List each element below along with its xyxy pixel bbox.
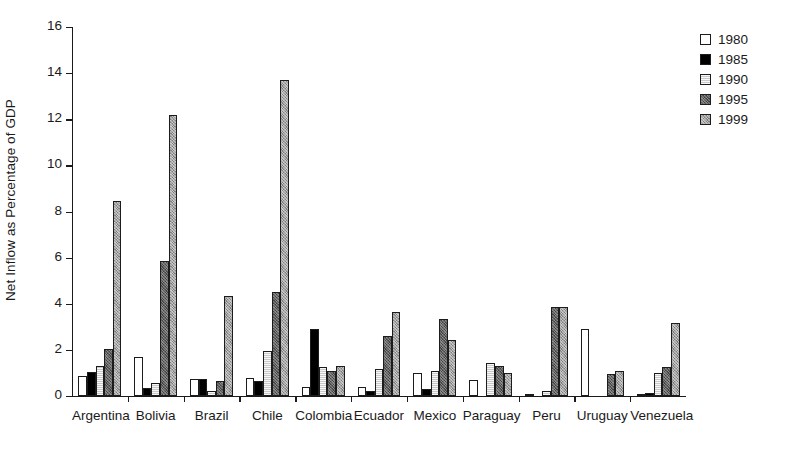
bar	[254, 381, 263, 396]
bar	[263, 351, 272, 396]
bar	[134, 357, 143, 396]
y-axis-tick: 14	[66, 73, 72, 74]
bar-group	[190, 27, 233, 396]
legend-swatch-icon	[700, 94, 711, 105]
legend-item: 1999	[700, 110, 792, 129]
bar	[358, 387, 367, 396]
legend-item: 1985	[700, 50, 792, 69]
bar	[366, 391, 375, 396]
y-axis-tick: 10	[66, 165, 72, 166]
y-axis-tick: 6	[66, 258, 72, 259]
y-axis-tick-label: 8	[38, 203, 62, 218]
bar	[160, 261, 169, 396]
legend-item: 1980	[700, 30, 792, 49]
bar	[190, 379, 199, 396]
x-axis-tick	[184, 396, 185, 402]
x-axis-line	[72, 396, 686, 397]
x-axis-tick	[574, 396, 575, 402]
bar	[431, 371, 440, 396]
bar-chart: Net Inflow as Percentage of GDP 02468101…	[0, 0, 798, 451]
bar-group	[413, 27, 456, 396]
bar	[383, 336, 392, 396]
y-axis-tick: 16	[66, 27, 72, 28]
legend-label: 1985	[718, 50, 748, 69]
x-axis-category-label: Venezuela	[630, 408, 686, 423]
bar	[96, 366, 105, 396]
bar	[495, 366, 504, 396]
bar	[671, 323, 680, 396]
bar	[280, 80, 289, 396]
legend-label: 1980	[718, 30, 748, 49]
bar	[113, 201, 122, 396]
bar	[199, 379, 208, 396]
bar	[336, 366, 345, 396]
bar	[169, 115, 178, 396]
legend-swatch-icon	[700, 34, 711, 45]
y-axis-tick-label: 6	[38, 249, 62, 264]
plot-area: 0246810121416 ArgentinaBoliviaBrazilChil…	[72, 27, 686, 396]
bar-group	[134, 27, 177, 396]
x-axis-tick	[630, 396, 631, 402]
bar	[310, 329, 319, 396]
bar	[504, 373, 513, 396]
bar-group	[246, 27, 289, 396]
bar	[224, 296, 233, 396]
x-axis-tick	[519, 396, 520, 402]
bar-group	[581, 27, 624, 396]
bar-group	[525, 27, 568, 396]
bar	[151, 383, 160, 396]
bar	[654, 373, 663, 396]
x-axis-category-label: Peru	[519, 408, 575, 423]
y-axis-line	[72, 27, 73, 396]
bar	[375, 369, 384, 396]
bar-group	[358, 27, 401, 396]
bar	[207, 391, 216, 396]
bar	[439, 319, 448, 396]
bar	[615, 371, 624, 396]
bar	[78, 376, 87, 396]
bar	[392, 312, 401, 396]
x-axis-category-label: Bolivia	[128, 408, 184, 423]
x-axis-tick	[239, 396, 240, 402]
x-axis-category-label: Mexico	[407, 408, 463, 423]
bar	[645, 393, 654, 396]
bar	[525, 394, 534, 396]
bar	[559, 307, 568, 396]
bar	[319, 367, 328, 396]
x-axis-category-label: Uruguay	[574, 408, 630, 423]
y-axis-tick: 8	[66, 212, 72, 213]
bar-group	[637, 27, 680, 396]
legend-label: 1990	[718, 70, 748, 89]
x-axis-category-label: Argentina	[72, 408, 128, 423]
legend-label: 1995	[718, 90, 748, 109]
bar	[551, 307, 560, 396]
y-axis-tick-label: 2	[38, 341, 62, 356]
bar	[486, 363, 495, 396]
bar-group	[302, 27, 345, 396]
x-axis-category-label: Brazil	[184, 408, 240, 423]
bar	[581, 329, 590, 396]
y-axis-tick-label: 12	[38, 110, 62, 125]
x-axis-tick	[407, 396, 408, 402]
legend-swatch-icon	[700, 114, 711, 125]
y-axis-tick: 2	[66, 350, 72, 351]
x-axis-category-label: Paraguay	[463, 408, 519, 423]
bar	[662, 367, 671, 396]
y-axis-tick-label: 16	[38, 18, 62, 33]
legend-swatch-icon	[700, 54, 711, 65]
bar-group	[469, 27, 512, 396]
y-axis-tick: 4	[66, 304, 72, 305]
bar	[143, 388, 152, 396]
bar	[413, 373, 422, 396]
y-axis-title: Net Inflow as Percentage of GDP	[0, 0, 22, 400]
x-axis-tick	[351, 396, 352, 402]
bar	[448, 340, 457, 397]
bar	[327, 371, 336, 396]
bar	[637, 394, 646, 396]
legend-swatch-icon	[700, 74, 711, 85]
x-axis-tick	[128, 396, 129, 402]
x-axis-category-label: Chile	[239, 408, 295, 423]
bar-group	[78, 27, 121, 396]
legend-label: 1999	[718, 110, 748, 129]
bar	[542, 391, 551, 396]
